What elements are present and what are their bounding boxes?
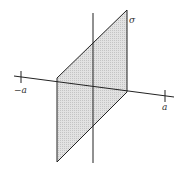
diagram-canvas: σ −a a	[0, 0, 188, 176]
neg-a-label: −a	[14, 85, 27, 95]
plane-label: σ	[129, 15, 136, 25]
pos-a-label: a	[162, 102, 167, 112]
